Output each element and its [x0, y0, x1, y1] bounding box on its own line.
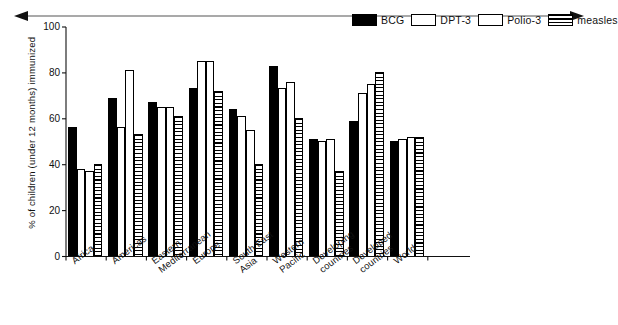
- bar-bcg: [68, 127, 77, 256]
- bar-polio3: [286, 82, 295, 256]
- bar-polio3: [407, 137, 416, 256]
- bar-group: [229, 27, 263, 256]
- bar-dpt3: [117, 127, 126, 256]
- y-tick-label: 60: [34, 114, 60, 124]
- bar-group: [309, 27, 343, 256]
- y-axis-tick-labels: 020406080100: [30, 0, 60, 325]
- bar-bcg: [309, 139, 318, 256]
- bar-polio3: [367, 84, 376, 256]
- bar-group: [68, 27, 102, 256]
- bar-polio3: [206, 61, 215, 256]
- bar-measles: [415, 137, 424, 256]
- bar-dpt3: [77, 169, 86, 256]
- y-tick-label: 80: [34, 68, 60, 78]
- bar-bcg: [229, 109, 238, 256]
- bar-dpt3: [157, 107, 166, 256]
- chart-bars: [66, 27, 426, 256]
- bar-group: [390, 27, 424, 256]
- bar-measles: [214, 91, 223, 256]
- y-tick-label: 40: [34, 160, 60, 170]
- x-axis-category-labels: AfricaAmericasEastern MediterraneanEurop…: [66, 258, 486, 325]
- y-tick-label: 20: [34, 206, 60, 216]
- bar-measles: [375, 72, 384, 256]
- bar-bcg: [108, 98, 117, 256]
- bar-group: [269, 27, 303, 256]
- bar-group: [189, 27, 223, 256]
- bar-dpt3: [237, 116, 246, 256]
- bar-polio3: [166, 107, 175, 256]
- bar-group: [349, 27, 383, 256]
- bar-bcg: [148, 102, 157, 256]
- bar-group: [148, 27, 182, 256]
- bar-dpt3: [398, 139, 407, 256]
- bar-group: [108, 27, 142, 256]
- bar-dpt3: [358, 93, 367, 256]
- y-tick-label: 0: [34, 252, 60, 262]
- bar-dpt3: [278, 88, 287, 256]
- bar-polio3: [125, 70, 134, 256]
- bar-measles: [94, 164, 103, 256]
- bar-polio3: [246, 130, 255, 256]
- bar-bcg: [269, 66, 278, 256]
- bar-dpt3: [318, 141, 327, 256]
- y-tick-label: 100: [34, 22, 60, 32]
